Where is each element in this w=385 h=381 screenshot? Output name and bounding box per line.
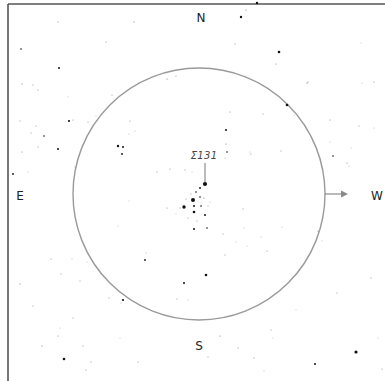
star-icon bbox=[378, 338, 379, 339]
star-icon bbox=[330, 142, 331, 143]
star-icon bbox=[294, 115, 295, 116]
star-icon bbox=[225, 143, 226, 144]
star-icon bbox=[96, 116, 97, 117]
star-icon bbox=[12, 173, 14, 175]
star-icon bbox=[306, 82, 307, 83]
star-icon bbox=[87, 262, 88, 263]
star-icon bbox=[86, 370, 87, 371]
star-icon bbox=[236, 242, 237, 243]
star-icon bbox=[20, 121, 21, 122]
star-icon bbox=[166, 78, 167, 79]
star-icon bbox=[273, 338, 274, 339]
star-icon bbox=[195, 191, 197, 193]
chart-background bbox=[0, 0, 385, 381]
star-icon bbox=[264, 371, 265, 372]
star-icon bbox=[91, 362, 92, 363]
star-icon bbox=[374, 128, 375, 129]
star-icon bbox=[191, 198, 195, 202]
star-icon bbox=[167, 208, 168, 209]
star-icon bbox=[208, 357, 209, 358]
star-icon bbox=[28, 172, 29, 173]
compass-label-south: S bbox=[195, 340, 203, 352]
star-icon bbox=[83, 346, 84, 347]
star-icon bbox=[144, 259, 146, 261]
star-icon bbox=[73, 120, 74, 121]
compass-label-north: N bbox=[197, 12, 206, 24]
star-icon bbox=[109, 298, 110, 299]
star-icon bbox=[286, 104, 289, 107]
star-icon bbox=[193, 211, 196, 214]
star-icon bbox=[276, 64, 277, 65]
star-icon bbox=[122, 299, 124, 301]
star-icon bbox=[191, 194, 192, 195]
star-icon bbox=[157, 172, 158, 173]
star-icon bbox=[20, 48, 22, 50]
star-icon bbox=[210, 202, 211, 203]
star-icon bbox=[43, 135, 45, 137]
star-icon bbox=[19, 283, 20, 284]
star-icon bbox=[176, 76, 177, 77]
star-icon bbox=[332, 155, 334, 157]
star-icon bbox=[138, 362, 139, 363]
star-icon bbox=[219, 335, 220, 336]
star-icon bbox=[200, 205, 202, 207]
star-icon bbox=[80, 281, 81, 282]
compass-label-east: E bbox=[16, 190, 24, 202]
star-icon bbox=[68, 120, 70, 122]
star-icon bbox=[240, 16, 242, 18]
star-icon bbox=[21, 83, 22, 84]
star-icon bbox=[317, 230, 318, 231]
star-icon bbox=[235, 44, 236, 45]
target-star-label: Σ131 bbox=[191, 151, 218, 161]
star-icon bbox=[225, 158, 226, 159]
star-icon bbox=[206, 227, 208, 229]
star-icon bbox=[208, 206, 209, 207]
star-icon bbox=[31, 133, 32, 134]
star-icon bbox=[225, 129, 227, 131]
star-icon bbox=[183, 282, 185, 284]
star-icon bbox=[51, 259, 52, 260]
star-icon bbox=[192, 172, 193, 173]
star-icon bbox=[58, 67, 60, 69]
star-icon bbox=[256, 2, 258, 4]
star-icon bbox=[245, 9, 246, 10]
star-icon bbox=[296, 310, 297, 311]
star-icon bbox=[361, 43, 362, 44]
star-icon bbox=[33, 306, 34, 307]
star-icon bbox=[199, 187, 201, 189]
star-icon bbox=[314, 363, 316, 365]
star-icon bbox=[281, 151, 282, 152]
star-icon bbox=[121, 303, 122, 304]
star-icon bbox=[36, 126, 37, 127]
star-icon bbox=[129, 201, 130, 202]
star-icon bbox=[197, 221, 198, 222]
star-icon bbox=[251, 154, 252, 155]
star-icon bbox=[226, 151, 228, 153]
star-icon bbox=[182, 205, 185, 208]
star-icon bbox=[263, 114, 264, 115]
star-icon bbox=[61, 274, 62, 275]
star-icon bbox=[117, 145, 119, 147]
star-icon bbox=[133, 21, 134, 22]
star-icon bbox=[250, 152, 251, 153]
star-icon bbox=[58, 336, 59, 337]
star-icon bbox=[120, 338, 121, 339]
star-icon bbox=[188, 300, 189, 301]
star-icon bbox=[121, 153, 123, 155]
star-icon bbox=[58, 22, 59, 23]
star-icon bbox=[41, 345, 42, 346]
star-icon bbox=[238, 348, 239, 349]
star-icon bbox=[146, 253, 147, 254]
star-icon bbox=[193, 228, 195, 230]
star-icon bbox=[38, 90, 39, 91]
star-icon bbox=[267, 251, 268, 252]
star-icon bbox=[180, 208, 181, 209]
star-icon bbox=[359, 126, 360, 127]
star-icon bbox=[38, 147, 39, 148]
star-icon bbox=[73, 318, 74, 319]
star-icon bbox=[362, 83, 363, 84]
star-icon bbox=[186, 199, 187, 200]
star-icon bbox=[122, 146, 124, 148]
star-icon bbox=[170, 169, 171, 170]
star-icon bbox=[330, 120, 331, 121]
